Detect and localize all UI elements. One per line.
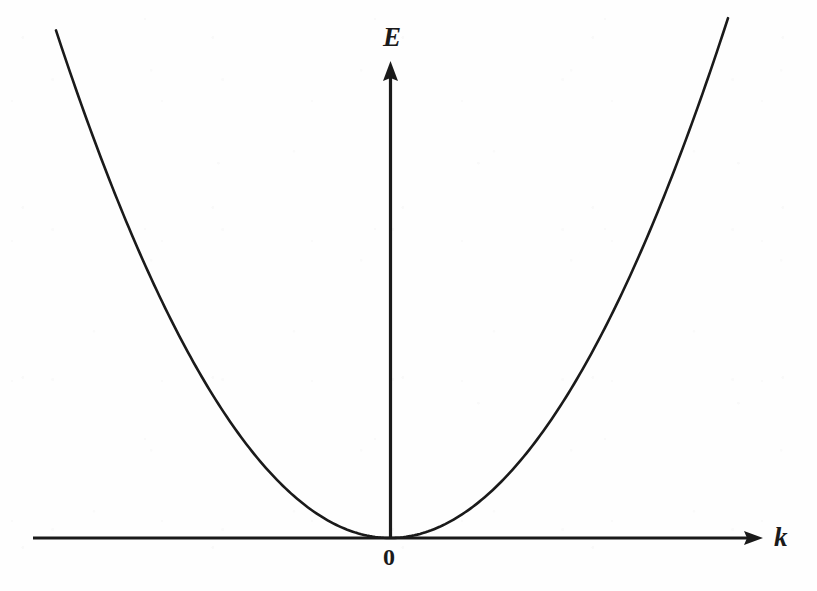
energy-band-parabola-plot xyxy=(0,0,817,591)
y-axis-label: E xyxy=(383,24,401,51)
x-axis-label: k xyxy=(774,524,788,551)
figure-canvas: E k 0 xyxy=(0,0,817,591)
y-axis-group xyxy=(383,61,398,538)
origin-label: 0 xyxy=(383,545,395,569)
y-axis-arrowhead-icon xyxy=(383,61,398,81)
